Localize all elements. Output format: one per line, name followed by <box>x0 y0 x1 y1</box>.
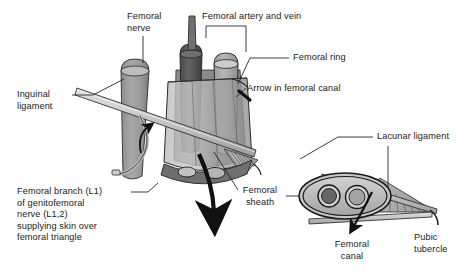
leader-femoral-branch <box>131 183 158 192</box>
label-arrow-in-femoral-canal: Arrow in femoral canal <box>247 83 341 95</box>
label-inguinal-ligament: Inguinal ligament <box>17 89 53 112</box>
inset-femoral-sheath-oval <box>299 173 391 219</box>
leader-lacunar-ligament <box>300 137 373 159</box>
label-pubic-tubercle: Pubic tubercle <box>414 232 448 255</box>
vessel-stub <box>188 16 196 50</box>
inset-view-group <box>299 173 438 226</box>
label-femoral-artery-and-vein: Femoral artery and vein <box>202 11 301 23</box>
artery-lumen <box>178 167 196 177</box>
label-femoral-ring: Femoral ring <box>293 52 346 64</box>
label-femoral-sheath: Femoral sheath <box>237 185 283 208</box>
label-lacunar-ligament: Lacunar ligament <box>377 131 449 143</box>
leader-artery-vein-bracket <box>206 26 246 52</box>
label-femoral-nerve: Femoral nerve <box>127 11 161 34</box>
label-femoral-branch-genitofemoral: Femoral branch (L1) of genitofemoral ner… <box>17 186 102 244</box>
label-femoral-canal: Femoral canal <box>326 239 378 262</box>
